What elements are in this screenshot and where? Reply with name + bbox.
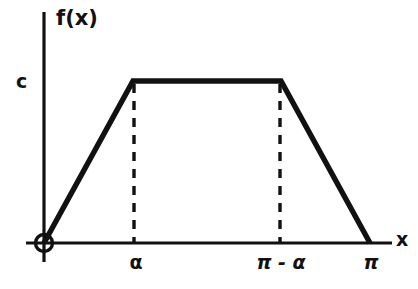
plot-canvas	[0, 0, 418, 289]
x-axis-label: x	[396, 230, 408, 249]
function-curve	[44, 81, 370, 243]
x-tick-label-pi: π	[363, 253, 378, 272]
x-tick-label-pi-minus-alpha: π - α	[256, 253, 305, 272]
x-tick-label-alpha: α	[129, 253, 142, 272]
y-axis-label: f(x)	[56, 8, 98, 29]
y-tick-label-c: c	[16, 72, 27, 91]
function-plot-figure: f(x) c x α π - α π	[0, 0, 418, 289]
